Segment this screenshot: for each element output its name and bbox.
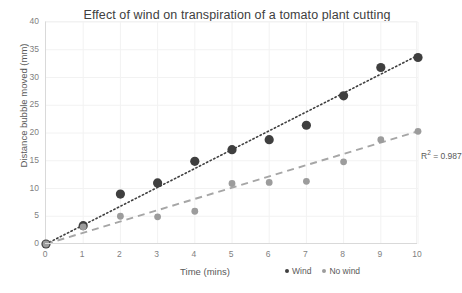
x-tick-label: 3 xyxy=(147,249,167,259)
y-tick-label: 5 xyxy=(13,210,39,220)
x-tick-label: 7 xyxy=(295,249,315,259)
x-tick-label: 2 xyxy=(109,249,129,259)
x-tick-label: 8 xyxy=(333,249,353,259)
x-tick-label: 1 xyxy=(72,249,92,259)
r2-suffix: = 0.987 xyxy=(431,151,462,161)
r-squared-annotation: R2 = 0.987 xyxy=(421,149,462,161)
x-tick-label: 10 xyxy=(407,249,427,259)
chart-title: Effect of wind on transpiration of a tom… xyxy=(52,8,422,22)
legend-item[interactable]: Wind xyxy=(285,266,311,276)
legend-label: No wind xyxy=(329,266,360,276)
x-tick-label: 5 xyxy=(221,249,241,259)
chart-container: Effect of wind on transpiration of a tom… xyxy=(0,0,462,293)
legend-marker-icon xyxy=(322,269,326,273)
legend-item[interactable]: No wind xyxy=(322,266,360,276)
x-axis-line xyxy=(45,243,417,244)
y-axis-title: Distance bubble moved (mm) xyxy=(18,21,29,191)
chart-legend: WindNo wind xyxy=(285,266,360,276)
y-tick-label: 0 xyxy=(13,238,39,248)
x-tick-label: 4 xyxy=(184,249,204,259)
plot-area xyxy=(45,21,417,243)
legend-marker-icon xyxy=(285,269,289,273)
plot-svg xyxy=(46,22,418,244)
legend-label: Wind xyxy=(292,266,311,276)
x-tick-label: 9 xyxy=(370,249,390,259)
x-tick-label: 6 xyxy=(258,249,278,259)
x-tick-label: 0 xyxy=(35,249,55,259)
x-axis-title: Time (mins) xyxy=(140,266,270,277)
